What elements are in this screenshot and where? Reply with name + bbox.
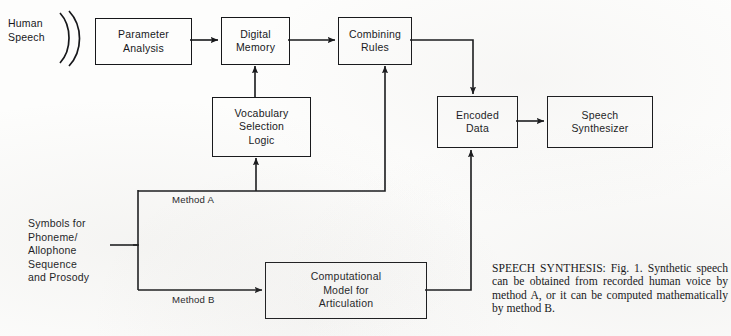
edge-label-method-a: Method A: [172, 194, 214, 206]
node-combining-rules[interactable]: Combining Rules: [338, 17, 412, 65]
sound-wave-icon: [60, 11, 80, 66]
node-digital-memory[interactable]: Digital Memory: [221, 17, 290, 65]
input-label-symbols: Symbols for Phoneme/ Allophone Sequence …: [28, 217, 130, 285]
node-parameter-analysis-label: Parameter Analysis: [118, 28, 169, 55]
figure-canvas: Parameter Analysis Digital Memory Combin…: [0, 0, 731, 336]
node-computational-model[interactable]: Computational Model for Articulation: [265, 262, 427, 319]
node-computational-model-label: Computational Model for Articulation: [311, 270, 381, 311]
node-parameter-analysis[interactable]: Parameter Analysis: [95, 18, 192, 65]
node-combining-rules-label: Combining Rules: [349, 28, 401, 55]
edge-label-method-b: Method B: [172, 294, 215, 306]
node-encoded-data-label: Encoded Data: [456, 109, 499, 136]
edge-combining-to-encoded: [410, 40, 473, 94]
node-vocabulary-selection-logic[interactable]: Vocabulary Selection Logic: [212, 97, 311, 157]
node-digital-memory-label: Digital Memory: [236, 28, 275, 55]
node-speech-synthesizer-label: Speech Synthesizer: [571, 109, 628, 136]
node-vocabulary-selection-logic-label: Vocabulary Selection Logic: [234, 107, 288, 148]
node-encoded-data[interactable]: Encoded Data: [437, 96, 518, 148]
figure-caption: SPEECH SYNTHESIS: Fig. 1. Synthetic spee…: [492, 262, 728, 316]
node-speech-synthesizer[interactable]: Speech Synthesizer: [547, 96, 653, 148]
input-label-human-speech: Human Speech: [8, 17, 58, 44]
edge-model-to-encoded: [425, 150, 471, 290]
